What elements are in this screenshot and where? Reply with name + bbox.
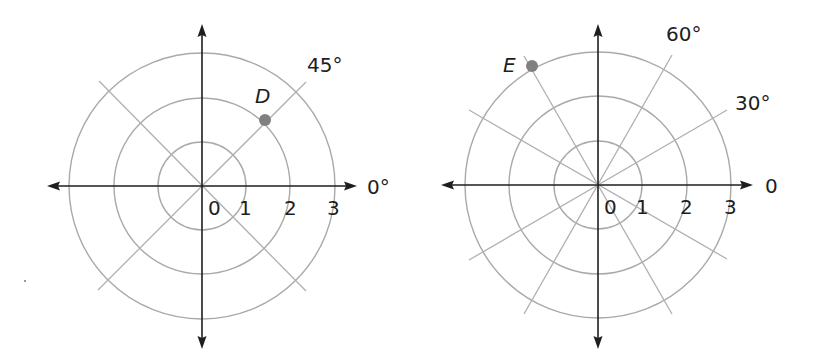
tick-label-3: 3 <box>327 196 340 220</box>
point-d <box>259 114 271 126</box>
tick-label-0: 0 <box>604 195 617 219</box>
point-e-label: E <box>503 53 516 77</box>
tick-label-2: 2 <box>680 195 693 219</box>
angle-label-60: 60° <box>666 22 701 46</box>
stray-speck <box>24 280 26 282</box>
left-polar-grid: 0 1 2 3 0° 45° D <box>47 24 390 349</box>
tick-label-3: 3 <box>724 195 737 219</box>
point-e <box>526 60 538 72</box>
tick-label-2: 2 <box>284 196 297 220</box>
polar-diagrams: 0 1 2 3 0° 45° D 0 1 2 3 <box>0 0 817 362</box>
angle-label-0: 0° <box>367 175 390 199</box>
angle-label-0: 0 <box>765 174 778 198</box>
tick-label-1: 1 <box>239 196 252 220</box>
point-d-label: D <box>255 84 270 108</box>
angle-label-30: 30° <box>735 91 770 115</box>
tick-label-1: 1 <box>636 195 649 219</box>
angle-label-45: 45° <box>307 53 342 77</box>
right-polar-grid: 0 1 2 3 0 30° 60° E <box>441 22 778 349</box>
tick-label-0: 0 <box>208 196 221 220</box>
